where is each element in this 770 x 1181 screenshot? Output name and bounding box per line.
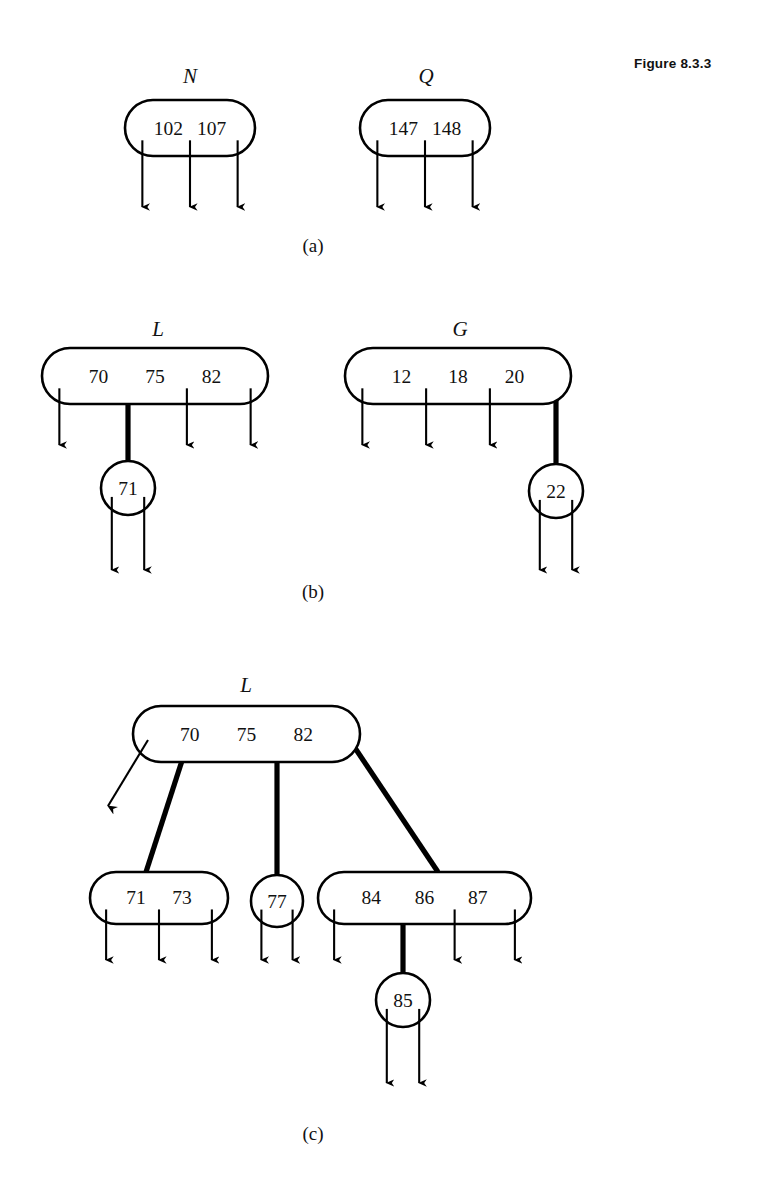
key-value: 84: [362, 887, 382, 908]
key-value: 20: [505, 366, 525, 387]
node-name-label: G: [452, 317, 467, 341]
key-value: 71: [126, 887, 146, 908]
key-value: 12: [392, 366, 412, 387]
key-value: 86: [415, 887, 435, 908]
key-value: 18: [448, 366, 468, 387]
figure-root: Figure 8.3.3 N102107Q147148(a)L70758271G…: [0, 0, 770, 1181]
key-value: 70: [89, 366, 109, 387]
key-value: 75: [145, 366, 165, 387]
key-value: 87: [468, 887, 488, 908]
panel-label-b: (b): [302, 581, 324, 603]
child-edge: [347, 736, 438, 872]
key-value: 75: [237, 724, 257, 745]
dangling-pointer-arrow: [108, 740, 148, 806]
panel-label-a: (a): [302, 235, 323, 257]
node-name-label: L: [239, 673, 252, 697]
key-value: 70: [180, 724, 200, 745]
key-value: 102: [154, 118, 183, 139]
key-value: 147: [389, 118, 419, 139]
key-value: 77: [267, 891, 287, 912]
key-value: 82: [294, 724, 314, 745]
node-name-label: Q: [418, 64, 433, 88]
key-value: 22: [546, 481, 566, 502]
key-value: 73: [172, 887, 192, 908]
panel-label-c: (c): [302, 1123, 323, 1145]
btree-diagram-canvas: N102107Q147148(a)L70758271G12182022(b)L7…: [0, 0, 770, 1181]
key-value: 148: [432, 118, 461, 139]
key-value: 82: [202, 366, 222, 387]
node-name-label: L: [151, 317, 164, 341]
key-value: 71: [118, 478, 138, 499]
key-value: 107: [197, 118, 227, 139]
node-name-label: N: [182, 64, 198, 88]
key-value: 85: [393, 990, 413, 1011]
